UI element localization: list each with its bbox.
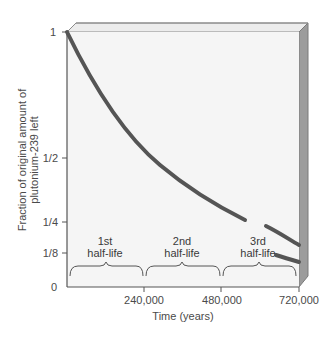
y-axis-title-line2: plutonium-239 left [28,116,40,203]
x-tick-label: 240,000 [124,294,164,306]
y-tick-label: 0 [51,281,57,293]
half-life-label-1-ordinal: 1st [98,235,113,247]
half-life-label-3-text: half-life [240,247,275,259]
y-tick-label: 1 [50,26,56,38]
x-ticks [144,287,299,292]
y-tick-label: 1/4 [43,216,58,228]
y-tick-label: 1/2 [43,152,58,164]
panel-right-side [299,23,308,287]
half-life-chart: 1 1/2 1/4 1/8 0 240,000 480,000 720,000 … [0,0,328,338]
x-tick-label: 480,000 [202,294,242,306]
half-life-label-2-ordinal: 2nd [173,235,191,247]
y-axis-title-line1: Fraction of original amount of [16,88,28,231]
y-ticks [62,32,67,253]
half-life-label-3-ordinal: 3rd [250,235,266,247]
y-tick-label: 1/8 [43,247,58,259]
x-tick-label: 720,000 [279,294,319,306]
half-life-label-2-text: half-life [164,247,199,259]
panel-top-bevel [67,23,308,32]
x-axis-title: Time (years) [152,310,213,322]
half-life-label-1-text: half-life [87,247,122,259]
